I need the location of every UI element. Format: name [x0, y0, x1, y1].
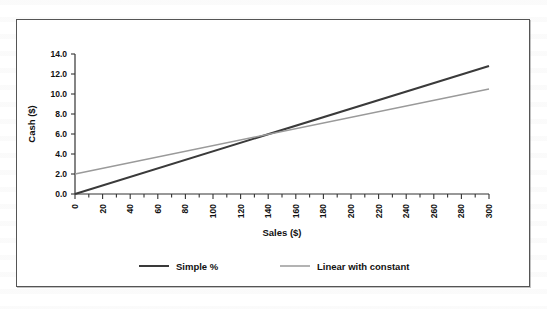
y-tick-label: 14.0 [50, 49, 67, 59]
x-tick-label: 40 [125, 204, 135, 214]
line-chart: 0.02.04.06.08.010.012.014.0 020406080100… [17, 20, 529, 286]
y-axis-title: Cash ($) [26, 105, 37, 142]
x-tick-label: 260 [429, 204, 439, 218]
legend-label-0: Simple % [176, 261, 219, 272]
y-tick-label: 12.0 [50, 69, 67, 79]
legend-label-1: Linear with constant [317, 261, 410, 272]
x-tick-label: 300 [484, 204, 494, 218]
x-tick-label: 100 [208, 204, 218, 218]
y-tick-label: 0.0 [55, 189, 67, 199]
x-tick-label: 180 [318, 204, 328, 218]
x-tick-label: 160 [291, 204, 301, 218]
y-tick-label: 4.0 [55, 149, 67, 159]
y-tick-label: 6.0 [55, 129, 67, 139]
x-tick-label: 240 [401, 204, 411, 218]
x-tick-label: 120 [236, 204, 246, 218]
y-tick-label: 10.0 [50, 89, 67, 99]
screenshot-root: 0.02.04.06.08.010.012.014.0 020406080100… [0, 0, 547, 309]
plot-background [17, 20, 529, 286]
x-tick-label: 200 [346, 204, 356, 218]
x-tick-label: 60 [153, 204, 163, 214]
x-tick-label: 140 [263, 204, 273, 218]
x-tick-label: 280 [456, 204, 466, 218]
x-tick-label: 0 [70, 204, 80, 209]
x-axis-title: Sales ($) [262, 227, 301, 238]
chart-figure-frame: 0.02.04.06.08.010.012.014.0 020406080100… [16, 19, 530, 287]
x-tick-label: 80 [180, 204, 190, 214]
x-tick-label: 20 [98, 204, 108, 214]
y-tick-label: 8.0 [55, 109, 67, 119]
y-tick-label: 2.0 [55, 169, 67, 179]
x-tick-label: 220 [374, 204, 384, 218]
